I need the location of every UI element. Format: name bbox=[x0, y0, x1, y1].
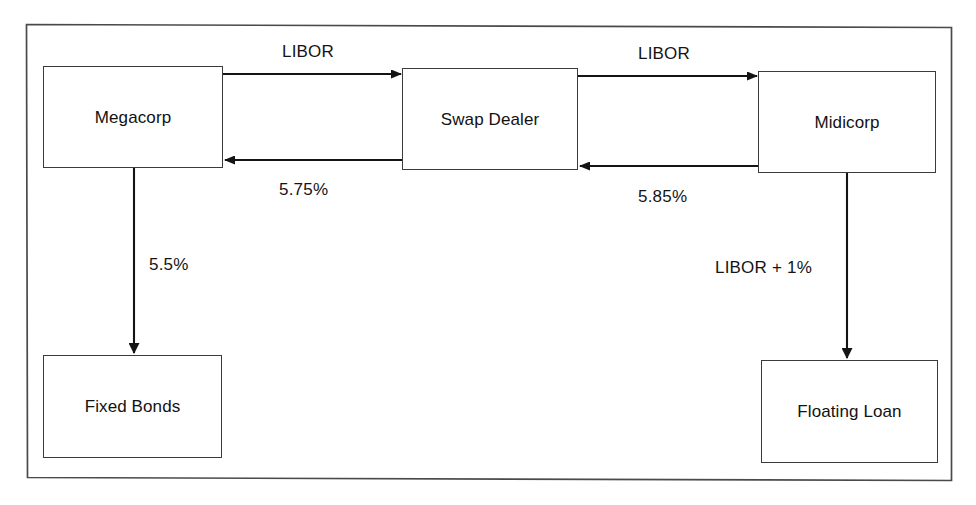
node-midicorp[interactable]: Midicorp bbox=[758, 71, 936, 173]
node-floating-loan-label: Floating Loan bbox=[797, 403, 901, 420]
node-swap-dealer-label: Swap Dealer bbox=[441, 111, 539, 128]
node-swap-dealer[interactable]: Swap Dealer bbox=[402, 68, 578, 170]
edge-label-megacorp-to-fixed-bonds: 5.5% bbox=[149, 256, 189, 273]
edge-label-midicorp-to-floating-loan: LIBOR + 1% bbox=[715, 259, 812, 276]
edge-label-dealer-to-midicorp: LIBOR bbox=[638, 45, 690, 62]
node-fixed-bonds[interactable]: Fixed Bonds bbox=[43, 355, 222, 458]
node-fixed-bonds-label: Fixed Bonds bbox=[85, 398, 181, 415]
node-megacorp-label: Megacorp bbox=[95, 109, 171, 126]
swap-diagram-canvas: Megacorp Swap Dealer Midicorp Fixed Bond… bbox=[0, 0, 976, 505]
edge-label-megacorp-to-dealer: LIBOR bbox=[282, 43, 334, 60]
edge-label-midicorp-to-dealer: 5.85% bbox=[638, 188, 687, 205]
node-midicorp-label: Midicorp bbox=[814, 114, 879, 131]
node-megacorp[interactable]: Megacorp bbox=[43, 66, 223, 168]
edge-label-dealer-to-megacorp: 5.75% bbox=[279, 181, 328, 198]
node-floating-loan[interactable]: Floating Loan bbox=[761, 360, 938, 463]
